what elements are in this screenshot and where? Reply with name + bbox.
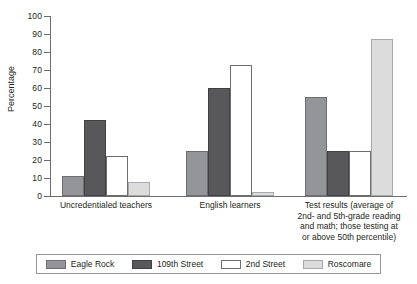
bar xyxy=(62,176,84,196)
y-axis-tick xyxy=(44,142,50,143)
bar-group xyxy=(305,16,393,196)
y-axis-tick xyxy=(44,196,50,197)
bar-group xyxy=(186,16,274,196)
legend-swatch-icon xyxy=(46,260,66,269)
bar xyxy=(84,120,106,196)
plot-area xyxy=(50,16,407,196)
x-axis-line xyxy=(50,196,407,197)
y-axis-tick xyxy=(44,70,50,71)
legend-item: Eagle Rock xyxy=(46,260,114,269)
y-axis-tick xyxy=(44,34,50,35)
legend-label: 2nd Street xyxy=(246,260,285,269)
y-axis-tick xyxy=(44,106,50,107)
bar xyxy=(252,192,274,196)
y-axis-tick-label: 10 xyxy=(2,174,42,183)
y-axis-tick xyxy=(44,52,50,53)
category-label: Test results (average of2nd- and 5th-gra… xyxy=(284,200,414,242)
bar-chart: 1009080706050403020100 Percentage Uncred… xyxy=(0,0,417,284)
category-label-line: or above 50th percentile) xyxy=(284,232,414,243)
bar xyxy=(349,151,371,196)
legend-swatch-icon xyxy=(303,260,323,269)
category-label-line: 2nd- and 5th-grade reading xyxy=(284,211,414,222)
bar xyxy=(371,39,393,196)
bar xyxy=(208,88,230,196)
y-axis-tick xyxy=(44,124,50,125)
category-label: English learners xyxy=(170,200,290,211)
bar-group xyxy=(62,16,150,196)
y-axis-title: Percentage xyxy=(6,14,16,164)
bar xyxy=(327,151,349,196)
y-axis-tick xyxy=(44,160,50,161)
category-label: Uncredentialed teachers xyxy=(36,200,176,211)
y-axis-tick xyxy=(44,178,50,179)
legend-label: 109th Street xyxy=(157,260,203,269)
bar xyxy=(305,97,327,196)
legend-label: Roscomare xyxy=(328,260,371,269)
bar xyxy=(186,151,208,196)
category-label-line: Uncredentialed teachers xyxy=(36,200,176,211)
legend-swatch-icon xyxy=(221,260,241,269)
legend-item: 2nd Street xyxy=(221,260,285,269)
y-axis-tick xyxy=(44,88,50,89)
bar xyxy=(128,182,150,196)
legend-swatch-icon xyxy=(132,260,152,269)
legend-label: Eagle Rock xyxy=(71,260,114,269)
category-label-line: and math; those testing at xyxy=(284,221,414,232)
y-axis-tick xyxy=(44,16,50,17)
legend-item: Roscomare xyxy=(303,260,371,269)
legend-item: 109th Street xyxy=(132,260,203,269)
category-label-line: Test results (average of xyxy=(284,200,414,211)
chart-legend: Eagle Rock109th Street2nd StreetRoscomar… xyxy=(36,254,381,274)
category-label-line: English learners xyxy=(170,200,290,211)
bar xyxy=(106,156,128,196)
bar xyxy=(230,65,252,196)
